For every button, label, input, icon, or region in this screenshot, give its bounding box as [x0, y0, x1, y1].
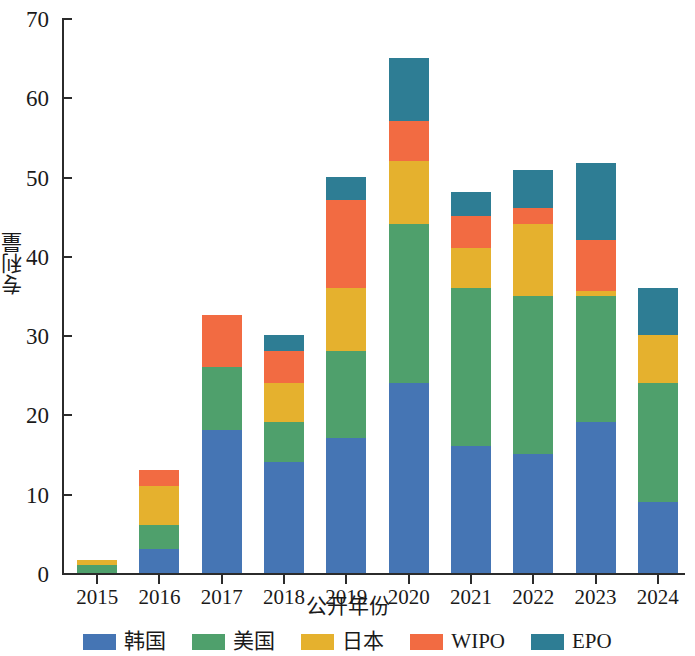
y-axis-line — [62, 18, 64, 575]
legend-label: EPO — [572, 631, 612, 652]
bar-segment[interactable] — [638, 288, 678, 336]
y-axis-tick-label: 50 — [26, 166, 49, 189]
y-axis-tick-label: 20 — [26, 404, 49, 427]
y-axis-tick-label: 0 — [38, 563, 50, 586]
bar-segment[interactable] — [513, 296, 553, 455]
x-axis-tick — [408, 575, 410, 584]
bar-stack[interactable] — [451, 192, 491, 573]
legend-label: 韩国 — [124, 631, 166, 652]
bar-segment[interactable] — [326, 177, 366, 201]
x-axis-tick — [158, 575, 160, 584]
bar-segment[interactable] — [513, 208, 553, 224]
bar-segment[interactable] — [389, 383, 429, 573]
bar-segment[interactable] — [202, 430, 242, 573]
bar-segment[interactable] — [389, 58, 429, 121]
bar-segment[interactable] — [451, 446, 491, 573]
bar-segment[interactable] — [202, 367, 242, 430]
y-axis-tick-label: 10 — [26, 483, 49, 506]
bar-stack[interactable] — [638, 288, 678, 573]
bar-stack[interactable] — [77, 560, 117, 573]
y-axis-tick — [64, 177, 72, 179]
plot-area: 010203040506070 201520162017201820192020… — [62, 18, 685, 575]
bar-segment[interactable] — [326, 438, 366, 573]
x-axis-tick — [595, 575, 597, 584]
bar-stack[interactable] — [513, 170, 553, 573]
bar-segment[interactable] — [576, 291, 616, 296]
y-axis-tick-label: 40 — [26, 245, 49, 268]
bar-stack[interactable] — [389, 58, 429, 573]
bar-segment[interactable] — [513, 224, 553, 295]
legend-label: WIPO — [451, 631, 505, 652]
bar-segment[interactable] — [638, 502, 678, 573]
x-axis-title: 公开年份 — [0, 594, 695, 618]
x-axis-tick — [470, 575, 472, 584]
bar-segment[interactable] — [77, 560, 117, 566]
legend-label: 日本 — [342, 631, 384, 652]
y-axis-tick-label: 30 — [26, 325, 49, 348]
bar-stack[interactable] — [139, 470, 179, 573]
legend-swatch — [301, 634, 334, 650]
stacked-bar-chart: 专利量 010203040506070 20152016201720182019… — [0, 0, 695, 656]
bar-segment[interactable] — [139, 549, 179, 573]
bar-segment[interactable] — [264, 462, 304, 573]
bar-segment[interactable] — [326, 351, 366, 438]
bar-segment[interactable] — [139, 470, 179, 486]
legend-item[interactable]: 美国 — [192, 631, 275, 652]
y-axis-tick — [64, 414, 72, 416]
bar-segment[interactable] — [389, 224, 429, 383]
bar-segment[interactable] — [638, 383, 678, 502]
legend-item[interactable]: 日本 — [301, 631, 384, 652]
legend-label: 美国 — [233, 631, 275, 652]
bar-segment[interactable] — [139, 486, 179, 526]
legend-swatch — [192, 634, 225, 650]
bar-segment[interactable] — [264, 351, 304, 383]
bar-segment[interactable] — [389, 161, 429, 224]
legend-swatch — [531, 634, 564, 650]
x-axis-tick — [96, 575, 98, 584]
bar-segment[interactable] — [576, 296, 616, 423]
bar-segment[interactable] — [264, 383, 304, 423]
x-axis-tick — [221, 575, 223, 584]
bar-segment[interactable] — [326, 288, 366, 351]
bar-segment[interactable] — [451, 192, 491, 216]
bar-segment[interactable] — [576, 422, 616, 573]
y-axis-tick — [64, 494, 72, 496]
x-axis-tick — [283, 575, 285, 584]
legend-item[interactable]: WIPO — [410, 631, 505, 652]
bar-segment[interactable] — [451, 216, 491, 248]
bar-stack[interactable] — [326, 177, 366, 573]
bar-segment[interactable] — [638, 335, 678, 383]
bar-segment[interactable] — [576, 240, 616, 291]
y-axis-tick — [64, 97, 72, 99]
bar-segment[interactable] — [513, 454, 553, 573]
x-axis-tick — [657, 575, 659, 584]
bar-segment[interactable] — [513, 170, 553, 208]
y-axis-tick-label: 70 — [26, 8, 49, 31]
y-axis-tick — [64, 18, 72, 20]
bar-segment[interactable] — [264, 335, 304, 351]
bar-segment[interactable] — [202, 315, 242, 367]
bar-segment[interactable] — [77, 565, 117, 573]
bar-segment[interactable] — [389, 121, 429, 161]
legend-swatch — [410, 634, 443, 650]
bar-segment[interactable] — [139, 525, 179, 549]
x-axis-line — [62, 573, 685, 575]
bar-segment[interactable] — [576, 163, 616, 240]
chart-legend: 韩国美国日本WIPOEPO — [0, 631, 695, 652]
bar-segment[interactable] — [451, 288, 491, 447]
bar-stack[interactable] — [202, 315, 242, 573]
y-axis-tick-label: 60 — [26, 87, 49, 110]
x-axis-tick — [532, 575, 534, 584]
legend-item[interactable]: 韩国 — [83, 631, 166, 652]
y-axis-tick — [64, 256, 72, 258]
x-axis-tick — [345, 575, 347, 584]
bar-segment[interactable] — [451, 248, 491, 288]
y-axis-tick — [64, 335, 72, 337]
legend-item[interactable]: EPO — [531, 631, 612, 652]
bar-stack[interactable] — [264, 335, 304, 573]
bar-segment[interactable] — [326, 200, 366, 287]
y-axis-tick — [64, 573, 72, 575]
bar-stack[interactable] — [576, 163, 616, 573]
legend-swatch — [83, 634, 116, 650]
bar-segment[interactable] — [264, 422, 304, 462]
